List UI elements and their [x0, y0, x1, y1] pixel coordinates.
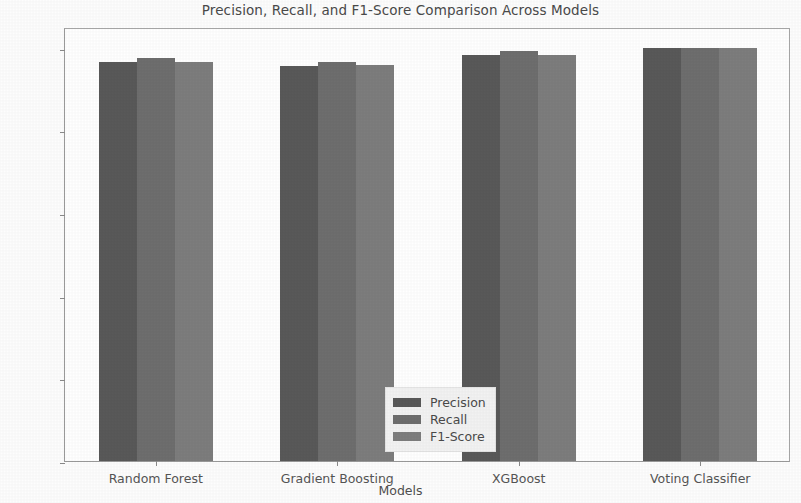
- legend-label: Precision: [430, 395, 486, 410]
- legend-swatch-icon: [393, 398, 421, 407]
- x-tick-mark: [337, 461, 338, 466]
- y-tick-mark: [60, 50, 65, 51]
- bar-f1-score-random-forest: [175, 62, 213, 461]
- y-tick-mark: [60, 215, 65, 216]
- legend-item-precision: Precision: [393, 394, 486, 411]
- x-tick-mark: [519, 461, 520, 466]
- chart-legend: PrecisionRecallF1-Score: [385, 387, 496, 452]
- bar-precision-gradient-boosting: [280, 66, 318, 461]
- x-tick-mark: [700, 461, 701, 466]
- bar-recall-voting-classifier: [681, 48, 719, 461]
- bar-precision-random-forest: [99, 62, 137, 461]
- legend-label: Recall: [430, 412, 467, 427]
- legend-swatch-icon: [393, 432, 421, 441]
- y-tick-mark: [60, 132, 65, 133]
- bar-f1-score-xgboost: [538, 55, 576, 461]
- y-tick-mark: [60, 463, 65, 464]
- bar-recall-gradient-boosting: [318, 62, 356, 461]
- x-axis-label: Models: [0, 483, 801, 498]
- legend-label: F1-Score: [430, 429, 485, 444]
- chart-figure: Precision, Recall, and F1-Score Comparis…: [0, 0, 801, 503]
- bar-recall-xgboost: [500, 51, 538, 461]
- legend-swatch-icon: [393, 415, 421, 424]
- bar-recall-random-forest: [137, 58, 175, 461]
- x-tick-mark: [156, 461, 157, 466]
- bar-precision-voting-classifier: [643, 48, 681, 461]
- legend-item-f1-score: F1-Score: [393, 428, 486, 445]
- y-tick-mark: [60, 298, 65, 299]
- legend-item-recall: Recall: [393, 411, 486, 428]
- bar-f1-score-voting-classifier: [719, 48, 757, 461]
- y-tick-mark: [60, 380, 65, 381]
- chart-title: Precision, Recall, and F1-Score Comparis…: [0, 2, 801, 18]
